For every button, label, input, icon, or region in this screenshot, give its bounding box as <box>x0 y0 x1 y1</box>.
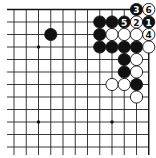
stone-disc <box>118 66 130 78</box>
stone-disc <box>118 41 130 53</box>
stone-disc <box>130 53 142 65</box>
black-stone <box>106 41 118 53</box>
star-point <box>37 45 40 48</box>
stone-disc <box>143 41 155 53</box>
move-number-label: 6 <box>146 5 152 15</box>
white-stone <box>106 78 118 90</box>
stone-disc <box>118 78 130 90</box>
stone-disc <box>130 41 142 53</box>
black-stone <box>94 28 106 40</box>
star-point <box>110 120 113 123</box>
stone-disc <box>130 91 142 103</box>
white-stone: 4 <box>143 28 155 40</box>
move-number-label: 4 <box>146 30 152 40</box>
white-stone: 6 <box>143 3 155 15</box>
stone-disc <box>130 66 142 78</box>
stone-disc <box>118 53 130 65</box>
stone-disc <box>106 28 118 40</box>
black-stone <box>118 41 130 53</box>
stone-disc <box>94 41 106 53</box>
stone-disc <box>94 28 106 40</box>
white-stone <box>130 66 142 78</box>
black-stone: 5 <box>118 16 130 28</box>
black-stone <box>45 28 57 40</box>
white-stone <box>130 28 142 40</box>
black-stone <box>130 41 142 53</box>
stone-disc <box>130 28 142 40</box>
move-number-label: 1 <box>146 18 152 28</box>
stone-disc <box>94 16 106 28</box>
stone-disc <box>130 78 142 90</box>
white-stone: 2 <box>130 16 142 28</box>
stone-disc <box>106 16 118 28</box>
move-number-label: 2 <box>133 18 139 28</box>
white-stone <box>130 91 142 103</box>
black-stone <box>118 66 130 78</box>
stone-disc <box>106 78 118 90</box>
white-stone <box>118 28 130 40</box>
go-board: 365214 <box>0 0 156 158</box>
move-number-label: 3 <box>133 5 139 15</box>
stone-disc <box>106 41 118 53</box>
black-stone <box>130 78 142 90</box>
stone-disc <box>118 28 130 40</box>
white-stone <box>130 53 142 65</box>
stone-disc <box>45 28 57 40</box>
black-stone <box>106 16 118 28</box>
star-point <box>37 120 40 123</box>
white-stone <box>106 28 118 40</box>
black-stone <box>118 53 130 65</box>
white-stone <box>143 41 155 53</box>
white-stone <box>118 78 130 90</box>
move-number-label: 5 <box>121 18 127 28</box>
black-stone: 1 <box>143 16 155 28</box>
black-stone <box>94 41 106 53</box>
black-stone <box>94 16 106 28</box>
black-stone: 3 <box>130 3 142 15</box>
